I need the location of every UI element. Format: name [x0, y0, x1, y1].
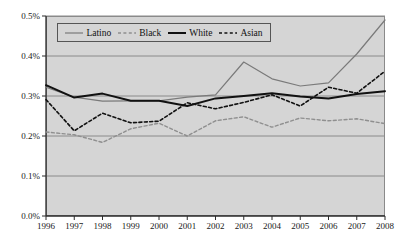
chart-legend: LatinoBlackWhiteAsian — [57, 23, 271, 42]
legend-swatch-asian — [219, 30, 237, 36]
y-tick-label: 0.1% — [0, 171, 40, 181]
line-chart: 0.0%0.1%0.2%0.3%0.4%0.5% 199619971998199… — [0, 0, 410, 249]
legend-label: Black — [139, 28, 161, 38]
legend-item-white: White — [168, 28, 212, 38]
y-tick-label: 0.5% — [0, 11, 40, 21]
legend-swatch-black — [118, 30, 136, 36]
legend-item-latino: Latino — [65, 28, 111, 38]
y-tick-label: 0.3% — [0, 91, 40, 101]
legend-label: Asian — [240, 28, 262, 38]
legend-swatch-latino — [65, 30, 83, 36]
plot-area — [46, 16, 385, 216]
y-tick-label: 0.0% — [0, 211, 40, 221]
legend-swatch-white — [168, 30, 186, 36]
legend-label: Latino — [86, 28, 111, 38]
legend-item-asian: Asian — [219, 28, 262, 38]
y-tick-label: 0.2% — [0, 131, 40, 141]
legend-label: White — [189, 28, 212, 38]
legend-item-black: Black — [118, 28, 161, 38]
x-tick-label: 2008 — [365, 221, 405, 231]
y-tick-label: 0.4% — [0, 51, 40, 61]
